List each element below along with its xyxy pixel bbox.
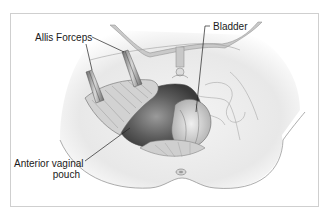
label-allis-forceps: Allis Forceps xyxy=(35,32,92,43)
label-anterior-vaginal-pouch-line2: pouch xyxy=(14,169,80,180)
anus xyxy=(176,169,186,175)
label-anterior-vaginal-pouch: Anterior vaginal pouch xyxy=(14,158,80,180)
label-bladder: Bladder xyxy=(213,21,247,32)
label-anterior-vaginal-pouch-line1: Anterior vaginal xyxy=(14,158,80,169)
